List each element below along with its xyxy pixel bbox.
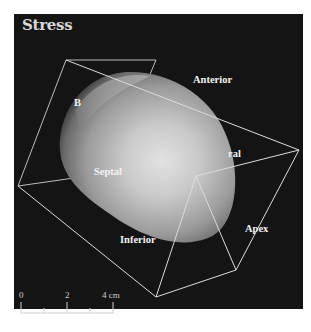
label-apex: Apex <box>245 223 268 234</box>
scale-label-0: 0 <box>19 290 24 300</box>
scale-label-4cm: 4 cm <box>102 290 120 300</box>
label-septal: Septal <box>94 166 122 177</box>
label-base: B <box>74 97 81 108</box>
label-inferior: Inferior <box>120 234 156 245</box>
heart-3d-render <box>0 0 311 332</box>
scale-bar <box>21 302 113 313</box>
scale-label-2: 2 <box>65 290 70 300</box>
label-anterior: Anterior <box>193 74 232 85</box>
label-lateral: ral <box>228 148 241 159</box>
figure-title: Stress <box>22 16 72 34</box>
